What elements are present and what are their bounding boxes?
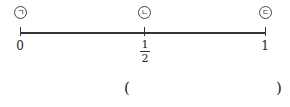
open-paren: ( <box>124 81 130 96</box>
number-line <box>20 32 266 34</box>
label-one: 1 <box>258 40 272 52</box>
tick-zero <box>20 27 21 36</box>
answer-field[interactable] <box>140 81 250 96</box>
marker-digeut: ㄷ <box>259 6 272 19</box>
tick-one <box>265 27 266 36</box>
fraction-numerator: 1 <box>138 39 152 50</box>
label-zero: 0 <box>13 40 27 52</box>
close-paren: ) <box>276 81 282 96</box>
marker-nieun: ㄴ <box>138 6 151 19</box>
label-half: 1 2 <box>138 39 152 64</box>
tick-half <box>144 27 145 36</box>
marker-giyeok: ㄱ <box>14 6 27 19</box>
fraction-denominator: 2 <box>138 53 152 64</box>
